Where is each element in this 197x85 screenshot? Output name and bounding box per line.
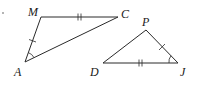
angle-arc-a: [28, 53, 34, 58]
stray-dot: [2, 12, 4, 14]
triangle-mac: [25, 14, 118, 63]
congruent-triangles-diagram: M A C P D J: [0, 0, 197, 85]
vertex-label-j: J: [180, 65, 186, 79]
vertex-label-m: M: [27, 5, 39, 19]
segment-pd: [103, 30, 146, 63]
vertex-label-a: A: [13, 65, 22, 79]
vertex-label-c: C: [121, 7, 130, 21]
vertex-label-d: D: [89, 65, 99, 79]
angle-arc-j: [169, 56, 171, 63]
vertex-label-p: P: [141, 15, 150, 29]
triangle-pdj: [103, 30, 178, 67]
